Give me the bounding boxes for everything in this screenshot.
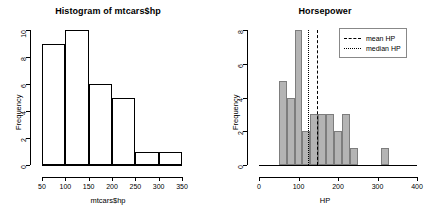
x-axis-tick-label: 100 [293,183,305,190]
reference-line-mean-HP [317,30,318,165]
y-axis-tick-label: 8 [237,30,244,34]
bar-50-70 [279,81,287,165]
y-axis-tick [26,30,30,31]
y-axis-tick-label: 8 [20,57,27,61]
x-axis-tick-label: 350 [176,183,188,190]
x-axis-tick-label: 150 [83,183,95,190]
bar-150-170 [318,114,326,165]
x-axis-tick [259,177,260,181]
bar-300-350 [159,152,182,166]
x-axis-tick [159,177,160,181]
bar-90-110 [295,30,303,165]
bar-70-90 [287,98,295,166]
legend-key-dashed [344,38,361,39]
x-axis-title-left: mtcars$hp [0,196,216,205]
bar-210-230 [342,114,350,165]
x-axis-tick [378,177,379,181]
bar-50-100 [42,44,65,166]
plot-area-left: 501001502002503003500246810 [42,30,182,165]
legend-item-mean-HP: mean HP [344,33,401,43]
y-axis-title-right: Frequency [231,95,240,130]
y-axis-line [30,30,31,165]
x-axis-tick-label: 300 [153,183,165,190]
reference-line-median-HP [308,30,309,165]
x-axis-tick [65,177,66,181]
y-axis-tick [243,98,247,99]
x-axis-tick [89,177,90,181]
x-axis-tick [182,177,183,181]
x-axis-tick [112,177,113,181]
x-axis-tick-label: 100 [59,183,71,190]
y-axis-tick [243,131,247,132]
x-axis-title-right: HP [217,196,433,205]
legend-item-median-HP: median HP [344,43,401,53]
bar-170-190 [326,114,334,165]
y-axis-tick [26,84,30,85]
y-axis-tick-label: 2 [20,138,27,142]
y-axis-line [247,30,248,165]
x-axis-tick-label: 200 [106,183,118,190]
bar-190-210 [334,131,342,165]
x-axis-tick [42,177,43,181]
x-axis-tick [135,177,136,181]
x-axis-tick-label: 200 [332,183,344,190]
y-axis-tick [26,138,30,139]
y-axis-tick [243,64,247,65]
y-axis-tick-label: 0 [237,165,244,169]
x-axis-tick-label: 0 [257,183,261,190]
legend-label: mean HP [366,35,395,42]
bar-230-250 [350,148,358,165]
bar-250-300 [135,152,158,166]
y-axis-tick-label: 6 [20,84,27,88]
panel-horsepower-histogram: Horsepower 010020030040002468 mean HPmed… [217,0,433,216]
panel-histogram-mtcars-hp: Histogram of mtcars$hp 50100150200250300… [0,0,216,216]
chart-title-right: Horsepower [217,6,433,16]
bar-100-150 [65,30,88,165]
y-axis-tick [243,30,247,31]
bar-310-330 [381,148,389,165]
x-axis-tick-label: 250 [129,183,141,190]
x-axis-tick [417,177,418,181]
plot-baseline [259,165,417,166]
y-axis-tick [26,57,30,58]
chart-title-left: Histogram of mtcars$hp [0,6,216,16]
x-axis-tick-label: 50 [38,183,46,190]
x-axis-tick [338,177,339,181]
y-axis-tick [26,111,30,112]
y-axis-tick-label: 6 [237,64,244,68]
y-axis-tick-label: 0 [20,165,27,169]
legend-label: median HP [366,45,401,52]
y-axis-tick-label: 10 [20,30,27,38]
bar-200-250 [112,98,135,166]
y-axis-tick-label: 2 [237,131,244,135]
bar-150-200 [89,84,112,165]
legend-key-dotted [344,48,361,49]
y-axis-tick [26,165,30,166]
y-axis-tick [243,165,247,166]
y-axis-title-left: Frequency [14,95,23,130]
figure-canvas: Histogram of mtcars$hp 50100150200250300… [0,0,433,216]
x-axis-tick-label: 400 [411,183,423,190]
bar-110-130 [302,131,310,165]
x-axis-tick-label: 300 [372,183,384,190]
legend: mean HPmedian HP [339,28,407,58]
x-axis-tick [299,177,300,181]
plot-baseline [42,165,182,166]
